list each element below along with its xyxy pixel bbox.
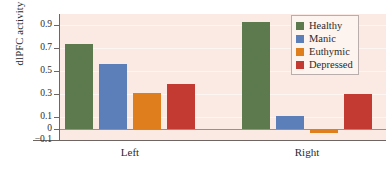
x-axis-spine (33, 140, 386, 141)
y-tick-label: 0.3 (12, 89, 52, 99)
bar-left-depressed (167, 84, 195, 129)
x-tick-label-right: Right (262, 146, 352, 158)
y-tick-label: 0.1 (12, 112, 52, 122)
legend-label: Manic (309, 33, 336, 44)
y-tick (54, 129, 60, 130)
legend: HealthyManicEuthymicDepressed (291, 15, 359, 75)
y-tick-label: 0.9 (12, 20, 52, 30)
legend-label: Depressed (309, 59, 353, 70)
y-tick-label: −0.1 (12, 135, 52, 145)
legend-swatch-icon (296, 35, 304, 43)
bar-right-euthymic (310, 129, 338, 134)
bar-right-healthy (242, 22, 270, 129)
y-tick (54, 25, 60, 26)
x-tick-label-left: Left (85, 146, 175, 158)
legend-item-depressed[interactable]: Depressed (296, 58, 353, 71)
y-tick-label: 0.5 (12, 66, 52, 76)
bar-right-manic (276, 116, 304, 129)
legend-label: Healthy (309, 20, 342, 31)
legend-swatch-icon (296, 48, 304, 56)
legend-swatch-icon (296, 61, 304, 69)
legend-label: Euthymic (309, 46, 350, 57)
legend-item-healthy[interactable]: Healthy (296, 19, 353, 32)
chart-container: dlPFC activity 0.90.70.50.30.10−0.1 Left… (0, 0, 391, 170)
y-axis-spine (59, 14, 60, 141)
legend-swatch-icon (296, 22, 304, 30)
y-tick (54, 94, 60, 95)
bar-left-euthymic (133, 93, 161, 129)
y-tick-label: 0.7 (12, 43, 52, 53)
y-tick-label: 0 (12, 124, 52, 134)
y-tick (54, 71, 60, 72)
y-tick (54, 117, 60, 118)
legend-item-euthymic[interactable]: Euthymic (296, 45, 353, 58)
y-tick (54, 140, 60, 141)
bar-left-manic (99, 64, 127, 128)
y-tick (54, 48, 60, 49)
legend-item-manic[interactable]: Manic (296, 32, 353, 45)
bar-right-depressed (344, 94, 372, 128)
bar-left-healthy (65, 44, 93, 129)
